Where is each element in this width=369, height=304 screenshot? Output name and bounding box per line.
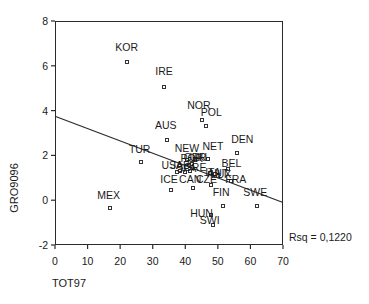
y-axis-tick-label: 6 <box>20 61 48 72</box>
data-point-label: DEN <box>231 133 253 144</box>
data-point-label: KOR <box>115 42 138 53</box>
data-point-marker <box>200 118 204 122</box>
data-point-marker <box>169 188 173 192</box>
data-point-marker <box>255 204 259 208</box>
x-axis-tick-label: 0 <box>52 256 58 267</box>
x-axis-tick-label: 50 <box>212 256 224 267</box>
scatter-plot-figure: 86420-2010203040506070 KORIRENORPOLAUSDE… <box>0 0 369 304</box>
data-point-label: SWE <box>243 187 267 198</box>
data-point-marker <box>165 138 169 142</box>
data-point-label: FRA <box>225 174 246 185</box>
data-point-label: MEX <box>97 189 120 200</box>
x-axis-tick-label: 10 <box>82 256 94 267</box>
data-point-label: ICE <box>160 174 178 185</box>
data-point-marker <box>108 206 112 210</box>
data-point-label: AUS <box>155 120 177 131</box>
data-point-marker <box>221 204 225 208</box>
data-point-label: POL <box>201 106 222 117</box>
data-point-marker <box>125 60 129 64</box>
y-axis-tick-label: 2 <box>20 150 48 161</box>
data-point-label: GRE <box>184 161 207 172</box>
x-axis-tick-label: 70 <box>277 256 289 267</box>
y-axis-tick-label: 8 <box>20 16 48 27</box>
data-point-label: SWI <box>200 215 220 226</box>
x-axis-tick-label: 60 <box>245 256 257 267</box>
data-point-label: TUR <box>129 143 151 154</box>
data-point-label: FIN <box>213 187 230 198</box>
data-point-marker <box>139 160 143 164</box>
data-point-marker <box>191 186 195 190</box>
x-axis-title: TOT97 <box>52 277 86 289</box>
rsq-annotation: Rsq = 0,1220 <box>289 231 352 243</box>
y-axis-tick-label: 4 <box>20 105 48 116</box>
data-point-marker <box>204 124 208 128</box>
y-axis-tick-label: -2 <box>20 240 48 251</box>
data-point-label: IRE <box>155 66 173 77</box>
data-point-marker <box>235 151 239 155</box>
x-axis-tick-label: 30 <box>147 256 159 267</box>
data-point-marker <box>162 85 166 89</box>
data-point-label: CZE <box>196 174 217 185</box>
y-axis-title: GRO9096 <box>8 153 20 223</box>
y-axis-tick-label: 0 <box>20 195 48 206</box>
x-axis-tick-label: 40 <box>179 256 191 267</box>
x-axis-tick-label: 20 <box>114 256 126 267</box>
